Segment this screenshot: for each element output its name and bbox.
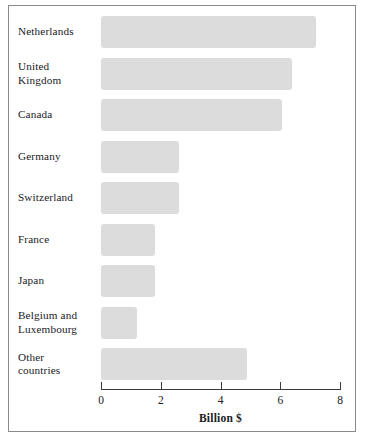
bar-category-label: UnitedKingdom <box>18 60 96 87</box>
bar <box>101 141 179 173</box>
bar-category-label-line: Kingdom <box>18 74 96 88</box>
bar-category-label: Netherlands <box>18 25 96 39</box>
bar-category-label-line: France <box>18 233 96 247</box>
bar-category-label: Canada <box>18 108 96 122</box>
bar <box>101 224 155 256</box>
bar <box>101 307 137 339</box>
bar-category-label-line: Japan <box>18 274 96 288</box>
bar-category-label-line: Other <box>18 351 96 365</box>
x-axis-tick <box>161 382 162 390</box>
bar-category-label: Switzerland <box>18 191 96 205</box>
bar-category-label-line: United <box>18 60 96 74</box>
x-axis-tick-label: 4 <box>208 394 234 406</box>
x-axis-tick <box>101 382 102 390</box>
x-axis-tick <box>221 382 222 390</box>
bar <box>101 16 316 48</box>
bar-category-label-line: countries <box>18 364 96 378</box>
bar <box>101 99 282 131</box>
x-axis-tick-label: 8 <box>327 394 353 406</box>
bar-category-label: Japan <box>18 274 96 288</box>
bar-category-label-line: Canada <box>18 108 96 122</box>
x-axis-tick <box>340 382 341 390</box>
x-axis-tick-label: 2 <box>148 394 174 406</box>
bar-category-label-line: Switzerland <box>18 191 96 205</box>
bar <box>101 182 179 214</box>
bar <box>101 265 155 297</box>
x-axis-tick-label: 0 <box>88 394 114 406</box>
bar-category-label-line: Germany <box>18 150 96 164</box>
chart-plot-area: NetherlandsUnitedKingdomCanadaGermanySwi… <box>0 0 367 439</box>
bar-category-label: France <box>18 233 96 247</box>
x-axis-tick-label: 6 <box>267 394 293 406</box>
bar <box>101 348 247 380</box>
chart-figure: NetherlandsUnitedKingdomCanadaGermanySwi… <box>0 0 367 439</box>
bar <box>101 58 292 90</box>
bar-category-label-line: Luxembourg <box>18 323 96 337</box>
bar-category-label-line: Netherlands <box>18 25 96 39</box>
bar-category-label: Belgium andLuxembourg <box>18 309 96 336</box>
bar-category-label: Othercountries <box>18 351 96 378</box>
bar-category-label: Germany <box>18 150 96 164</box>
x-axis-title: Billion $ <box>101 412 340 424</box>
x-axis-tick <box>280 382 281 390</box>
bar-category-label-line: Belgium and <box>18 309 96 323</box>
